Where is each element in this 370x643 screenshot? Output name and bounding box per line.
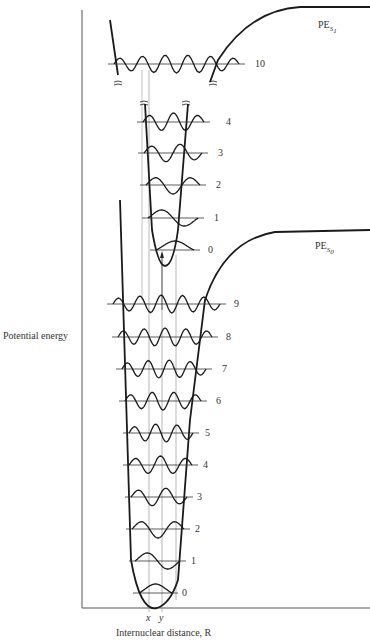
s1-wavefunction-2: [146, 178, 200, 194]
s0-wavefunction-0: [139, 584, 172, 593]
break-mark-icon: [140, 101, 148, 105]
s1-level-label-2: 2: [216, 180, 221, 190]
pe-s1-right-curve: [210, 7, 370, 82]
s1-level-label-0: 0: [208, 245, 213, 255]
s0-level-label-5: 5: [205, 428, 210, 438]
potential-energy-diagram: [0, 0, 370, 643]
s0-level-label-0: 0: [182, 588, 187, 598]
s1-level-label-1: 1: [214, 213, 219, 223]
s0-level-label-3: 3: [197, 492, 202, 502]
s0-level-label-9: 9: [234, 299, 239, 309]
pe-s1-label: PES1: [318, 20, 337, 35]
break-mark-icon: [209, 81, 217, 85]
s0-level-label-4: 4: [203, 460, 208, 470]
pe-s0-label: PES0: [315, 241, 334, 256]
s0-level-label-7: 7: [222, 364, 227, 374]
s1-level-label-4: 4: [226, 117, 231, 127]
break-mark-icon: [114, 81, 122, 85]
s0-level-label-8: 8: [226, 332, 231, 342]
s0-level-label-2: 2: [195, 524, 200, 534]
arrow-head-icon: [160, 251, 164, 258]
s1-level-label-3: 3: [218, 148, 223, 158]
s1-level-label-10: 10: [255, 59, 265, 69]
s0-level-label-6: 6: [216, 396, 221, 406]
x-tick-label-y: y: [159, 613, 163, 623]
pe-s1-left-wall: [110, 20, 118, 75]
s0-level-label-1: 1: [191, 556, 196, 566]
x-axis-label: Internuclear distance, R: [116, 628, 211, 638]
pe-s0-curve: [120, 200, 370, 608]
y-axis-label: Potential energy: [3, 331, 68, 341]
x-tick-label-x: x: [146, 613, 150, 623]
